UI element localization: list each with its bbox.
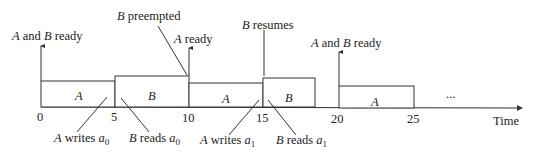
schedule-diagram: A B A B A ... 0 5 10 15 20 25 Time A and… (0, 0, 533, 158)
block-label: A (74, 89, 83, 103)
block-label: A (370, 95, 379, 109)
event-label-b-preempted: B preempted (117, 9, 181, 23)
tick-label: 25 (407, 112, 420, 126)
tick-label: 0 (37, 110, 43, 124)
event-label-a-b-ready: A and B ready (11, 29, 83, 43)
event-label-b-reads-a0: B reads a0 (129, 131, 181, 147)
tick-label: 5 (111, 110, 117, 124)
block-label: B (285, 91, 293, 105)
tick-label: 20 (331, 112, 344, 126)
event-label-b-reads-a1: B reads a1 (276, 133, 327, 149)
axis-label-time: Time (493, 114, 519, 128)
event-label-a-b-ready-2: A and B ready (310, 36, 382, 50)
tick-label: 10 (182, 111, 195, 125)
event-label-b-resumes: B resumes (242, 18, 294, 32)
tick-label: 15 (256, 111, 269, 125)
block-label: A (221, 92, 230, 106)
block-label: B (148, 89, 156, 103)
event-label-a-ready: A ready (173, 32, 213, 46)
event-label-a-writes-a1: A writes a1 (199, 133, 255, 149)
event-label-a-writes-a0: A writes a0 (53, 131, 110, 147)
continuation-ellipsis: ... (446, 87, 455, 101)
